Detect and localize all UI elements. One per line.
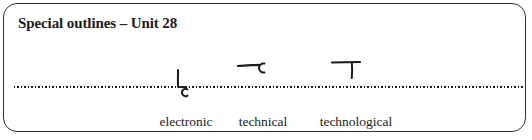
dotted-writing-line [14,86,525,88]
teeline-outline-technical-icon [236,57,268,79]
panel-title: Special outlines – Unit 28 [18,15,177,32]
outline-label-technological: technological [320,114,393,130]
special-outlines-panel: Special outlines – Unit 28 electronic te… [3,3,526,132]
outline-label-technical: technical [239,114,288,130]
teeline-outline-electronic-icon [168,67,194,99]
outline-label-electronic: electronic [159,114,212,130]
scanned-page: Special outlines – Unit 28 electronic te… [0,0,532,140]
teeline-outline-technological-icon [330,57,364,83]
